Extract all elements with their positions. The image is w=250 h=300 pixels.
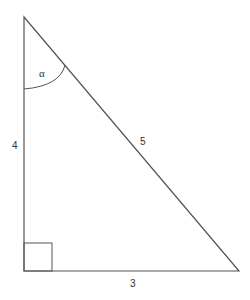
triangle-diagram [0,0,250,300]
right-angle-marker [24,243,52,271]
side-horizontal-label: 3 [130,279,136,289]
side-vertical-label: 4 [12,141,18,151]
side-hypotenuse-label: 5 [140,137,146,147]
triangle [24,17,239,271]
angle-alpha-label: α [39,68,45,79]
